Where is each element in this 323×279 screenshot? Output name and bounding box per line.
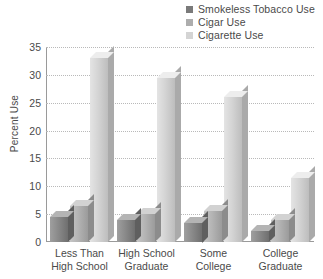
y-axis-line [46,47,47,242]
bar-side-face [135,208,141,242]
legend-swatch-icon [186,32,193,39]
legend-label: Cigar Use [198,16,246,28]
bar-front-face [251,231,269,242]
x-axis-tick-label: Less Than High School [46,247,113,272]
y-axis-tick-label: 35 [29,41,41,53]
y-axis-tick-label: 30 [29,69,41,81]
bar-side-face [242,85,248,242]
x-axis-tick-label: Some College [180,247,247,272]
bar-group [117,47,181,242]
bar-side-face [202,211,208,243]
y-axis-tick-label: 0 [35,236,41,248]
bar[interactable] [184,223,202,243]
bar-group [50,47,114,242]
bar-front-face [50,217,68,242]
bar-side-face [175,66,181,242]
legend-label: Smokeless Tobacco Use [198,3,315,15]
y-axis-tick-label: 20 [29,125,41,137]
legend-swatch-icon [186,6,193,13]
bar-side-face [289,208,295,242]
bar-side-face [108,46,114,242]
bar-group [251,47,315,242]
x-axis-tick-label: College Graduate [247,247,314,272]
legend-item-cigarette-use[interactable]: Cigarette Use [186,29,315,41]
chart-legend: Smokeless Tobacco Use Cigar Use Cigarett… [186,3,315,41]
bar-chart: Smokeless Tobacco Use Cigar Use Cigarett… [0,0,323,279]
y-axis-tick-label: 10 [29,180,41,192]
x-axis-tick-label: High School Graduate [113,247,180,272]
legend-item-smokeless-tobacco-use[interactable]: Smokeless Tobacco Use [186,3,315,15]
bar[interactable] [117,220,135,242]
bar[interactable] [251,231,269,242]
legend-label: Cigarette Use [198,29,264,41]
legend-swatch-icon [186,19,193,26]
bar-group [184,47,248,242]
y-axis-tick-label: 5 [35,208,41,220]
y-axis-tick-label: 25 [29,97,41,109]
bar[interactable] [50,217,68,242]
y-axis-tick-label: 15 [29,152,41,164]
bar-front-face [117,220,135,242]
plot-area: 05101520253035 [46,47,314,242]
bar-front-face [184,223,202,243]
legend-item-cigar-use[interactable]: Cigar Use [186,16,315,28]
y-axis-title: Percent Use [9,84,20,164]
